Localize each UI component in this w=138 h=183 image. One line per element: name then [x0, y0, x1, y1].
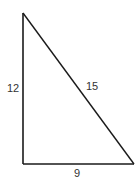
triangle: [23, 13, 134, 164]
horizontal-leg-label: 9: [74, 167, 80, 179]
triangle-diagram: 12 15 9: [0, 0, 138, 183]
hypotenuse: [23, 13, 134, 164]
hypotenuse-label: 15: [86, 80, 98, 92]
vertical-leg-label: 12: [7, 82, 19, 94]
